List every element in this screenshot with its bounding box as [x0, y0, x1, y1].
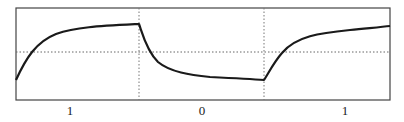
waveform-diagram: 1 0 1 — [0, 0, 404, 122]
segment-label-2: 0 — [199, 103, 206, 118]
segment-label-1: 1 — [67, 103, 74, 118]
segment-label-3: 1 — [342, 103, 349, 118]
plot-frame — [16, 8, 390, 100]
